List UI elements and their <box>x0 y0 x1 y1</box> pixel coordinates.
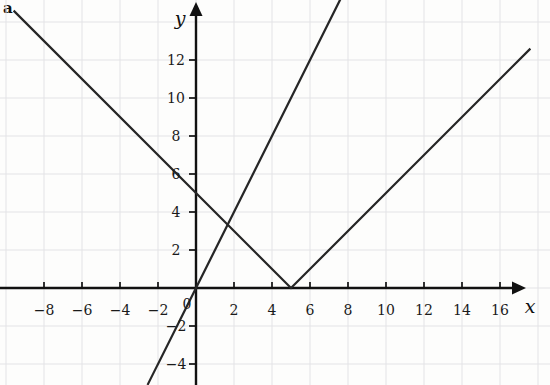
x-tick-label: 8 <box>344 303 353 317</box>
origin-label: 0 <box>183 297 192 311</box>
x-tick-label: 6 <box>306 303 315 317</box>
x-axis-label: x <box>525 297 536 316</box>
axes <box>0 2 526 385</box>
y-tick-label: 6 <box>172 167 181 181</box>
y-tick-label: 8 <box>172 129 181 143</box>
x-tick-label: 2 <box>230 303 239 317</box>
y-axis-label: y <box>175 9 186 28</box>
y-tick-label: 12 <box>167 53 185 67</box>
y-tick-label: −2 <box>166 319 187 333</box>
x-tick-label: −4 <box>110 303 131 317</box>
x-axis-arrow <box>512 282 526 295</box>
x-tick-label: 14 <box>453 303 471 317</box>
x-tick-label: −8 <box>34 303 55 317</box>
y-tick-label: 4 <box>172 205 181 219</box>
y-tick-label: 10 <box>167 91 185 105</box>
x-tick-label: −2 <box>148 303 169 317</box>
x-tick-label: 12 <box>415 303 433 317</box>
y-tick-label: 2 <box>172 243 181 257</box>
figure-panel: a −8−6−4−2246810121416−4−2246810120xy <box>0 0 550 385</box>
x-tick-label: −6 <box>72 303 93 317</box>
y-tick-label: −4 <box>166 357 187 371</box>
y-axis-arrow <box>190 2 203 16</box>
x-tick-label: 10 <box>377 303 395 317</box>
x-tick-label: 16 <box>491 303 509 317</box>
x-tick-label: 4 <box>268 303 277 317</box>
gridlines <box>0 0 550 385</box>
coordinate-plot <box>0 0 550 385</box>
